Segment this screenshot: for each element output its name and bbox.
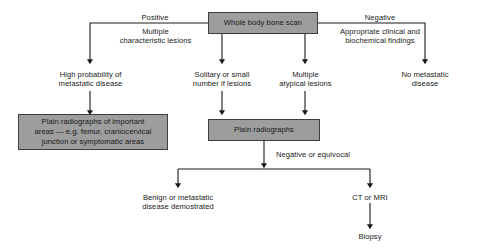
node-multiple-atypical-lesions: Multiple atypical lesions [258,70,353,89]
edge-label-multiple-characteristic-lesions: Multiple characteristic lesions [98,27,213,46]
node-benign-or-metastatic-disease-demostrated: Benign or metastatic disease demostrated [122,193,234,212]
edge-label-appropriate-clinical-biochemical: Appropriate clinical and biochemical fin… [318,27,442,46]
node-high-probability-metastatic-disease: High probability of metastatic disease [38,70,143,89]
edge-label-positive: Positive [110,13,200,22]
edge-label-negative-or-equivocal: Negative or equivocal [276,150,386,159]
node-plain-radiographs-important-areas[interactable]: Plain radiographs of important areas — e… [18,114,168,150]
node-solitary-or-small-number: Solitary or small number if lesions [173,70,271,89]
node-whole-body-bone-scan[interactable]: Whole body bone scan [208,12,318,34]
node-no-metastatic-disease: No metastatic disease [385,70,465,89]
node-plain-radiographs[interactable]: Plain radiographs [208,119,320,141]
flowchart-canvas: Whole body bone scan Positive Multiple c… [0,0,480,250]
node-ct-or-mri: CT or MRI [334,193,406,202]
edge-label-negative: Negative [340,13,420,22]
node-biopsy: Biopsy [340,232,400,241]
